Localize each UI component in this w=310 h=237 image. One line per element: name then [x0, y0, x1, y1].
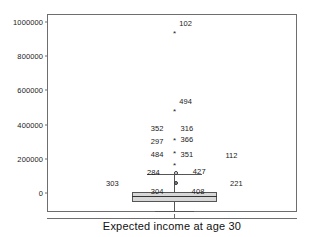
chart-root: 1000000 800000 600000 400000 200000 0	[0, 0, 310, 237]
outlier-label-221: 221	[230, 180, 243, 188]
outlier-label-408: 408	[192, 188, 205, 196]
outlier-label-284: 284	[147, 169, 160, 177]
lower-whisker-cap	[155, 211, 195, 212]
y-tick-label: 1000000	[13, 17, 48, 26]
outlier-marker-304-408	[174, 181, 178, 185]
y-tick-label: 600000	[17, 86, 48, 95]
outlier-marker-297-366	[173, 150, 176, 158]
outlier-marker-494	[173, 108, 176, 116]
outlier-label-366: 366	[180, 136, 193, 144]
median-line	[132, 196, 216, 197]
outlier-label-494: 494	[179, 98, 192, 106]
outlier-label-297: 297	[151, 138, 164, 146]
outlier-marker-284-427	[174, 171, 178, 175]
outlier-label-352: 352	[151, 125, 164, 133]
outlier-label-112: 112	[225, 152, 237, 160]
outlier-label-427: 427	[193, 168, 206, 176]
y-tick-label: 200000	[17, 155, 48, 164]
x-axis-line	[47, 218, 297, 219]
x-axis-label: Expected income at age 30	[47, 220, 297, 232]
outlier-label-304: 304	[151, 188, 164, 196]
outlier-label-303: 303	[106, 180, 119, 188]
y-tick-label: 800000	[17, 52, 48, 61]
outlier-marker-484-351	[173, 162, 176, 170]
lower-whisker	[174, 202, 175, 211]
outlier-label-351: 351	[180, 151, 193, 159]
outlier-label-484: 484	[151, 151, 164, 159]
y-tick-label: 400000	[17, 120, 48, 129]
outlier-marker-102	[173, 30, 176, 38]
outlier-label-102: 102	[179, 20, 192, 28]
plot-area: 1000000 800000 600000 400000 200000 0	[47, 14, 297, 212]
outlier-label-316: 316	[180, 125, 193, 133]
outlier-marker-352-316	[173, 137, 176, 145]
x-axis-tick	[174, 214, 175, 218]
y-tick-label: 0	[39, 189, 48, 198]
